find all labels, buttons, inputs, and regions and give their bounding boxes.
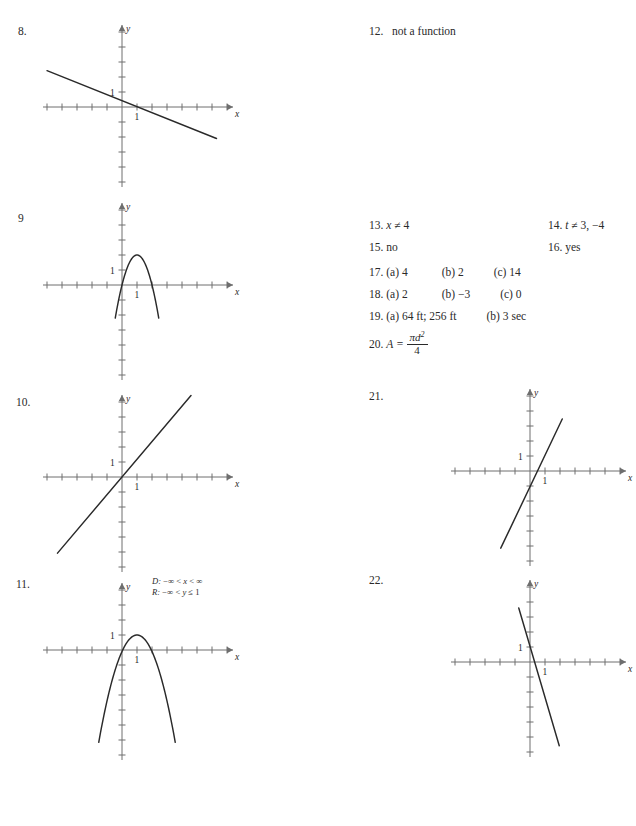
- answer-row-17: 17. (a) 4(b) 2(c) 14: [369, 266, 521, 278]
- answer-number: 17.: [369, 266, 386, 278]
- item-number-10: 10.: [16, 396, 30, 408]
- fraction-numerator: πd2: [407, 331, 428, 345]
- graph-10-y-axis-label: y: [125, 394, 131, 404]
- item-number-11: 11.: [16, 578, 30, 590]
- graph-21-y-axis-arrow-icon: [527, 389, 533, 395]
- graph-10-x-unit-label: 1: [135, 482, 140, 492]
- graph-9-y-unit-label: 1: [110, 266, 115, 276]
- item-number-22: 22.: [369, 574, 383, 586]
- graph-9-x-axis-arrow-icon: [227, 282, 233, 288]
- answer-row-18: 18. (a) 2(b) −3(c) 0: [369, 288, 522, 300]
- graph-10-y-unit-label: 1: [110, 458, 115, 468]
- answer-key-page: 8.11xy911xy10.11xy11.11xyD: −∞ < x < ∞R:…: [0, 0, 636, 826]
- answer-part: (b) 3 sec: [487, 310, 527, 322]
- graph-8-y-axis-label: y: [125, 24, 131, 34]
- answer-row-20: 20. A = πd24: [369, 331, 428, 356]
- graph-12-x-unit-label: 1: [520, 116, 525, 126]
- answer-part: (a) 2: [386, 288, 407, 300]
- answer-number: 14.: [548, 219, 565, 231]
- answer-number: 16.: [548, 241, 565, 253]
- graph-11-x-axis-label: x: [234, 652, 240, 662]
- graph-9-x-axis-label: x: [234, 287, 240, 297]
- graph-22-x-unit-label: 1: [543, 667, 548, 677]
- graph-8-x-unit-label: 1: [135, 112, 140, 122]
- domain-line: D: −∞ < x < ∞: [152, 576, 202, 587]
- graph-11-y-axis-label: y: [125, 582, 131, 592]
- graph-12-x-axis-arrow-icon: [612, 108, 618, 114]
- answer-row-13: 13. x ≠ 4: [369, 219, 409, 231]
- graph-12-y-axis-label: y: [510, 28, 516, 38]
- graph-21-y-axis-label: y: [533, 388, 539, 398]
- graph-11-y-axis-arrow-icon: [119, 583, 125, 589]
- range-line: R: −∞ < y ≤ 1: [152, 587, 202, 598]
- graph-8-y-axis-arrow-icon: [119, 25, 125, 31]
- answer-row-15: 15. no: [369, 241, 398, 253]
- answer-row-14: 14. t ≠ 3, −4: [548, 219, 604, 231]
- item-number-21: 21.: [369, 390, 383, 402]
- graph-21-x-axis-label: x: [627, 473, 633, 483]
- formula-lhs: A =: [386, 338, 403, 350]
- domain-range-annotation: D: −∞ < x < ∞R: −∞ < y ≤ 1: [152, 576, 202, 599]
- graph-8: 11xy: [40, 14, 230, 184]
- graph-22-curve: [519, 608, 560, 746]
- graph-9: 11xy: [40, 200, 230, 201]
- graph-9-x-unit-label: 1: [135, 290, 140, 300]
- answer-part: (c) 14: [494, 266, 521, 278]
- answer-number: 15.: [369, 241, 386, 253]
- graph-10-curve: [58, 396, 192, 554]
- answer-number: 18.: [369, 288, 386, 300]
- item-number-8: 8.: [18, 25, 27, 37]
- graph-22-y-unit-label: 1: [518, 643, 523, 653]
- answer-part: ≠ 3, −4: [568, 219, 604, 231]
- answer-number: 13.: [369, 219, 386, 231]
- graph-10-x-axis-label: x: [234, 479, 240, 489]
- graph-10-y-axis-arrow-icon: [119, 395, 125, 401]
- answer-number: 19.: [369, 310, 386, 322]
- graph-22-y-axis-label: y: [533, 579, 539, 589]
- answer-part: (a) 64 ft; 256 ft: [386, 310, 456, 322]
- graph-12-y-axis-arrow-icon: [504, 29, 510, 35]
- answer-part: (c) 0: [500, 288, 521, 300]
- answer-row-16: 16. yes: [548, 241, 581, 253]
- graph-11-x-unit-label: 1: [135, 655, 140, 665]
- graph-22-x-axis-label: x: [627, 664, 633, 674]
- fraction-denominator: 4: [407, 345, 428, 357]
- item-12-answer-text: not a function: [392, 25, 456, 37]
- graph-22-y-axis-arrow-icon: [527, 580, 533, 586]
- graph-22: 11xy: [455, 566, 636, 756]
- item-number-9: 9: [18, 212, 24, 224]
- graph-22-x-axis-arrow-icon: [620, 659, 626, 665]
- answer-number: 20.: [369, 338, 386, 350]
- graph-21-y-unit-label: 1: [518, 452, 523, 462]
- item-number-12: 12.: [369, 25, 383, 37]
- graph-9-y-axis-label: y: [125, 202, 131, 212]
- answer-part: no: [386, 241, 398, 253]
- answer-part: ≠ 4: [391, 219, 409, 231]
- graph-11-y-unit-label: 1: [110, 631, 115, 641]
- formula-fraction: πd24: [407, 331, 428, 356]
- answer-part: (b) 2: [442, 266, 464, 278]
- graph-8-x-axis-arrow-icon: [227, 104, 233, 110]
- graph-8-curve: [47, 71, 217, 139]
- graph-8-x-axis-label: x: [234, 109, 240, 119]
- graph-12-x-axis-label: x: [619, 113, 625, 123]
- graph-21-x-unit-label: 1: [543, 476, 548, 486]
- graph-10-x-axis-arrow-icon: [227, 474, 233, 480]
- graph-12-equation-label: x = y² − 1: [549, 34, 586, 44]
- graph-11-x-axis-arrow-icon: [227, 647, 233, 653]
- graph-21-x-axis-arrow-icon: [620, 468, 626, 474]
- graph-9-y-axis-arrow-icon: [119, 203, 125, 209]
- answer-row-19: 19. (a) 64 ft; 256 ft(b) 3 sec: [369, 310, 526, 322]
- answer-part: (b) −3: [442, 288, 471, 300]
- graph-10: 11xy: [40, 386, 230, 566]
- graph-21: 11xy: [455, 384, 636, 564]
- graph-21-curve: [501, 419, 563, 548]
- answer-part: yes: [565, 241, 580, 253]
- answer-part: (a) 4: [386, 266, 407, 278]
